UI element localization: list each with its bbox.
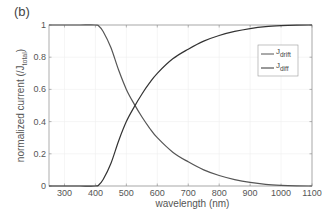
x-tick-label: 600 (150, 188, 165, 198)
x-tick-label: 800 (212, 188, 227, 198)
y-tick-label: 0.2 (33, 149, 46, 159)
y-tick-label: 0.4 (33, 117, 46, 127)
x-tick-label: 1100 (302, 188, 321, 198)
y-tick-label: 0.8 (33, 52, 46, 62)
line-chart: 3004005006007008009001000110000.20.40.60… (0, 0, 330, 213)
x-tick-label: 700 (181, 188, 196, 198)
x-tick-label: 400 (88, 188, 103, 198)
y-tick-label: 0 (41, 181, 46, 191)
y-tick-label: 1 (41, 20, 46, 30)
y-axis-label: normalized current (/Jtotal) (15, 49, 28, 162)
y-tick-label: 0.6 (33, 84, 46, 94)
x-tick-label: 900 (243, 188, 258, 198)
x-tick-label: 500 (119, 188, 134, 198)
x-tick-label: 1000 (271, 188, 291, 198)
x-axis-label: wavelength (nm) (155, 198, 230, 209)
x-tick-label: 300 (57, 188, 72, 198)
